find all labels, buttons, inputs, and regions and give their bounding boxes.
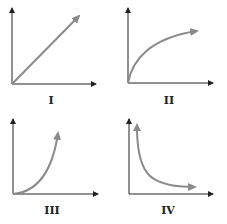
graphs-diagram: I II III IV bbox=[0, 0, 227, 224]
concave-up-curve bbox=[13, 133, 58, 194]
inverse-curve-start-arrow bbox=[133, 123, 141, 131]
concave-down-curve bbox=[128, 31, 197, 83]
graph-label: III bbox=[44, 204, 59, 217]
graph-i: I bbox=[12, 8, 96, 107]
graph-ii: II bbox=[128, 8, 213, 107]
inverse-curve bbox=[137, 131, 195, 187]
graph-iv: IV bbox=[129, 119, 213, 217]
graph-iii: III bbox=[13, 119, 98, 217]
linear-curve bbox=[12, 16, 79, 84]
graph-label: II bbox=[164, 94, 174, 107]
graph-label: I bbox=[48, 94, 53, 107]
graph-label: IV bbox=[161, 204, 175, 217]
